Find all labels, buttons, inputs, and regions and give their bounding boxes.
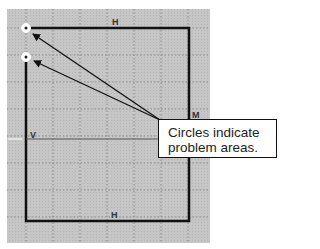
callout-box: Circles indicate problem areas. [158, 119, 277, 158]
constraint-marker-h: H [112, 17, 119, 27]
constraint-marker-h: H [111, 210, 118, 220]
constraint-marker-v: V [30, 130, 36, 140]
callout-line-2: problem areas. [168, 140, 276, 155]
problem-circle-center [25, 56, 28, 59]
problem-circle-center [25, 27, 28, 30]
callout-line-1: Circles indicate [168, 125, 276, 140]
